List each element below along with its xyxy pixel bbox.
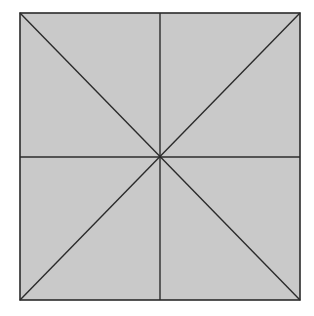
divided-square-diagram: [0, 0, 314, 316]
